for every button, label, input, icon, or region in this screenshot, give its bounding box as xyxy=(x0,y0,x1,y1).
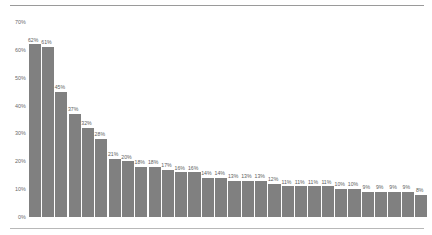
bar xyxy=(122,161,134,217)
bar xyxy=(69,114,81,217)
bar-slot: 18% xyxy=(149,22,161,217)
bar xyxy=(162,170,174,217)
bar-slot: 32% xyxy=(82,22,94,217)
bar xyxy=(55,92,67,217)
y-axis: 0%10%20%30%40%50%60%70% xyxy=(0,12,30,217)
bar-value-label: 17% xyxy=(161,163,171,168)
bar-value-label: 13% xyxy=(255,174,265,179)
top-divider-rule xyxy=(10,5,424,6)
bar-slot: 17% xyxy=(162,22,174,217)
y-axis-tick-10: 10% xyxy=(15,186,26,192)
bars-container: 62%61%45%37%32%28%21%20%18%18%17%16%16%1… xyxy=(28,22,428,217)
bar-value-label: 37% xyxy=(68,107,78,112)
bar xyxy=(149,167,161,217)
bar xyxy=(402,192,414,217)
bar-chart-figure: 0%10%20%30%40%50%60%70% 62%61%45%37%32%2… xyxy=(0,0,432,235)
y-axis-tick-40: 40% xyxy=(15,103,26,109)
y-axis-tick-70: 70% xyxy=(15,19,26,25)
bar xyxy=(175,172,187,217)
bar xyxy=(362,192,374,217)
bar xyxy=(335,189,347,217)
bar-value-label: 16% xyxy=(188,166,198,171)
bar-slot: 45% xyxy=(55,22,67,217)
bar xyxy=(42,47,54,217)
bar-value-label: 9% xyxy=(363,185,371,190)
bar xyxy=(82,128,94,217)
bar-slot: 18% xyxy=(135,22,147,217)
bar xyxy=(308,186,320,217)
bar-value-label: 14% xyxy=(201,171,211,176)
bar-value-label: 10% xyxy=(348,182,358,187)
bars-region: 62%61%45%37%32%28%21%20%18%18%17%16%16%1… xyxy=(28,12,428,217)
bar-slot: 21% xyxy=(109,22,121,217)
bar-slot: 9% xyxy=(375,22,387,217)
bar xyxy=(29,44,41,217)
bar-value-label: 11% xyxy=(321,180,331,185)
bar-slot: 13% xyxy=(228,22,240,217)
bar-slot: 9% xyxy=(402,22,414,217)
bar-value-label: 61% xyxy=(41,40,51,45)
bar-value-label: 32% xyxy=(81,121,91,126)
bar-value-label: 28% xyxy=(95,132,105,137)
bar-slot: 14% xyxy=(202,22,214,217)
bar xyxy=(375,192,387,217)
bottom-divider-rule xyxy=(10,228,424,229)
bar xyxy=(255,181,267,217)
bar-value-label: 45% xyxy=(55,85,65,90)
bar-value-label: 8% xyxy=(416,188,424,193)
bar-value-label: 10% xyxy=(335,182,345,187)
bar xyxy=(282,186,294,217)
plot-area: 0%10%20%30%40%50%60%70% 62%61%45%37%32%2… xyxy=(0,12,432,217)
y-axis-tick-50: 50% xyxy=(15,75,26,81)
y-axis-tick-20: 20% xyxy=(15,158,26,164)
bar xyxy=(109,159,121,218)
bar xyxy=(388,192,400,217)
bar-slot: 61% xyxy=(42,22,54,217)
bar xyxy=(242,181,254,217)
bar-value-label: 9% xyxy=(403,185,411,190)
bar-value-label: 21% xyxy=(108,152,118,157)
bar-slot: 11% xyxy=(308,22,320,217)
bar xyxy=(415,195,427,217)
bar-slot: 11% xyxy=(282,22,294,217)
bar-slot: 11% xyxy=(322,22,334,217)
bar xyxy=(322,186,334,217)
bar-slot: 28% xyxy=(95,22,107,217)
bar-value-label: 13% xyxy=(228,174,238,179)
bar xyxy=(215,178,227,217)
y-axis-tick-30: 30% xyxy=(15,130,26,136)
y-axis-tick-0: 0% xyxy=(18,214,26,220)
bar xyxy=(295,186,307,217)
bar-slot: 13% xyxy=(242,22,254,217)
bar xyxy=(268,184,280,217)
bar-value-label: 11% xyxy=(295,180,305,185)
bar-slot: 14% xyxy=(215,22,227,217)
bar-value-label: 18% xyxy=(135,160,145,165)
bar-slot: 11% xyxy=(295,22,307,217)
bar-slot: 16% xyxy=(188,22,200,217)
bar xyxy=(228,181,240,217)
bar-value-label: 11% xyxy=(281,180,291,185)
bar xyxy=(348,189,360,217)
bar xyxy=(135,167,147,217)
bar xyxy=(202,178,214,217)
bar xyxy=(188,172,200,217)
bar-slot: 62% xyxy=(29,22,41,217)
bar-slot: 12% xyxy=(268,22,280,217)
bar-slot: 9% xyxy=(362,22,374,217)
bar-slot: 16% xyxy=(175,22,187,217)
bar-value-label: 18% xyxy=(148,160,158,165)
bar-slot: 13% xyxy=(255,22,267,217)
bar-value-label: 9% xyxy=(389,185,397,190)
bar-slot: 8% xyxy=(415,22,427,217)
bar-value-label: 20% xyxy=(121,155,131,160)
bar-value-label: 62% xyxy=(28,38,38,43)
bar-slot: 10% xyxy=(348,22,360,217)
bar-value-label: 11% xyxy=(308,180,318,185)
bar-slot: 20% xyxy=(122,22,134,217)
y-axis-tick-60: 60% xyxy=(15,47,26,53)
bar-slot: 37% xyxy=(69,22,81,217)
bar-value-label: 16% xyxy=(175,166,185,171)
bar-value-label: 13% xyxy=(241,174,251,179)
bar-value-label: 9% xyxy=(376,185,384,190)
